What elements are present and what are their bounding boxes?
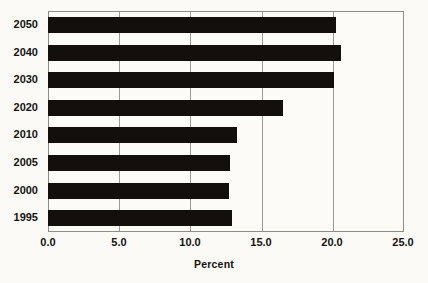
- bars-layer: [48, 11, 404, 232]
- y-axis-label-2050: 2050: [14, 11, 38, 39]
- bar-slot-2000: [48, 177, 404, 205]
- y-axis-label-1995: 1995: [14, 204, 38, 232]
- bar-2010: [48, 127, 237, 143]
- bar-slot-2030: [48, 66, 404, 94]
- bar-2005: [48, 155, 230, 171]
- x-tick-label-0: 0.0: [40, 236, 55, 248]
- bar-1995: [48, 210, 232, 226]
- bar-2030: [48, 72, 334, 88]
- y-axis-category-labels: 2050 2040 2030 2020 2010 2005 2000 1995: [0, 11, 44, 232]
- x-axis-title: Percent: [0, 258, 428, 270]
- x-tick-label-5: 5.0: [111, 236, 126, 248]
- bar-slot-2040: [48, 39, 404, 67]
- bar-2020: [48, 100, 283, 116]
- bar-slot-2020: [48, 94, 404, 122]
- x-tick-label-25: 25.0: [392, 236, 413, 248]
- bar-2040: [48, 45, 341, 61]
- y-axis-label-2020: 2020: [14, 94, 38, 122]
- bar-2000: [48, 183, 229, 199]
- bar-2050: [48, 17, 336, 33]
- bar-chart: 2050 2040 2030 2020 2010 2005 2000 1995: [0, 0, 428, 283]
- y-axis-label-2005: 2005: [14, 149, 38, 177]
- bar-slot-2005: [48, 149, 404, 177]
- bar-slot-1995: [48, 204, 404, 232]
- y-axis-label-2010: 2010: [14, 121, 38, 149]
- bar-slot-2010: [48, 121, 404, 149]
- x-tick-label-10: 10.0: [179, 236, 200, 248]
- bar-slot-2050: [48, 11, 404, 39]
- y-axis-label-2000: 2000: [14, 177, 38, 205]
- y-axis-label-2030: 2030: [14, 66, 38, 94]
- x-axis-tick-labels: 0.0 5.0 10.0 15.0 20.0 25.0: [0, 236, 428, 254]
- x-tick-label-15: 15.0: [250, 236, 271, 248]
- y-axis-label-2040: 2040: [14, 39, 38, 67]
- x-tick-label-20: 20.0: [321, 236, 342, 248]
